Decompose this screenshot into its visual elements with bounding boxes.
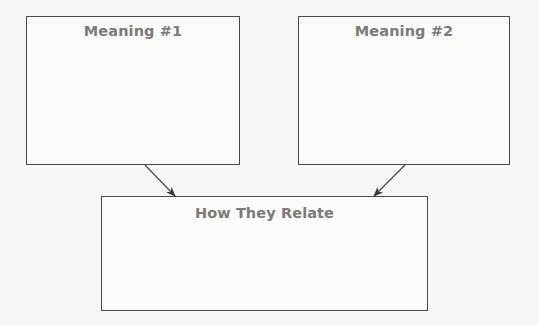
- meaning-1-title: Meaning #1: [27, 23, 239, 39]
- arrow-meaning-2-to-relation: [374, 165, 405, 196]
- meaning-1-box: Meaning #1: [26, 16, 240, 165]
- arrow-meaning-1-to-relation: [145, 165, 175, 196]
- meaning-2-title: Meaning #2: [299, 23, 509, 39]
- how-they-relate-title: How They Relate: [102, 205, 427, 221]
- how-they-relate-box: How They Relate: [101, 196, 428, 311]
- meaning-2-box: Meaning #2: [298, 16, 510, 165]
